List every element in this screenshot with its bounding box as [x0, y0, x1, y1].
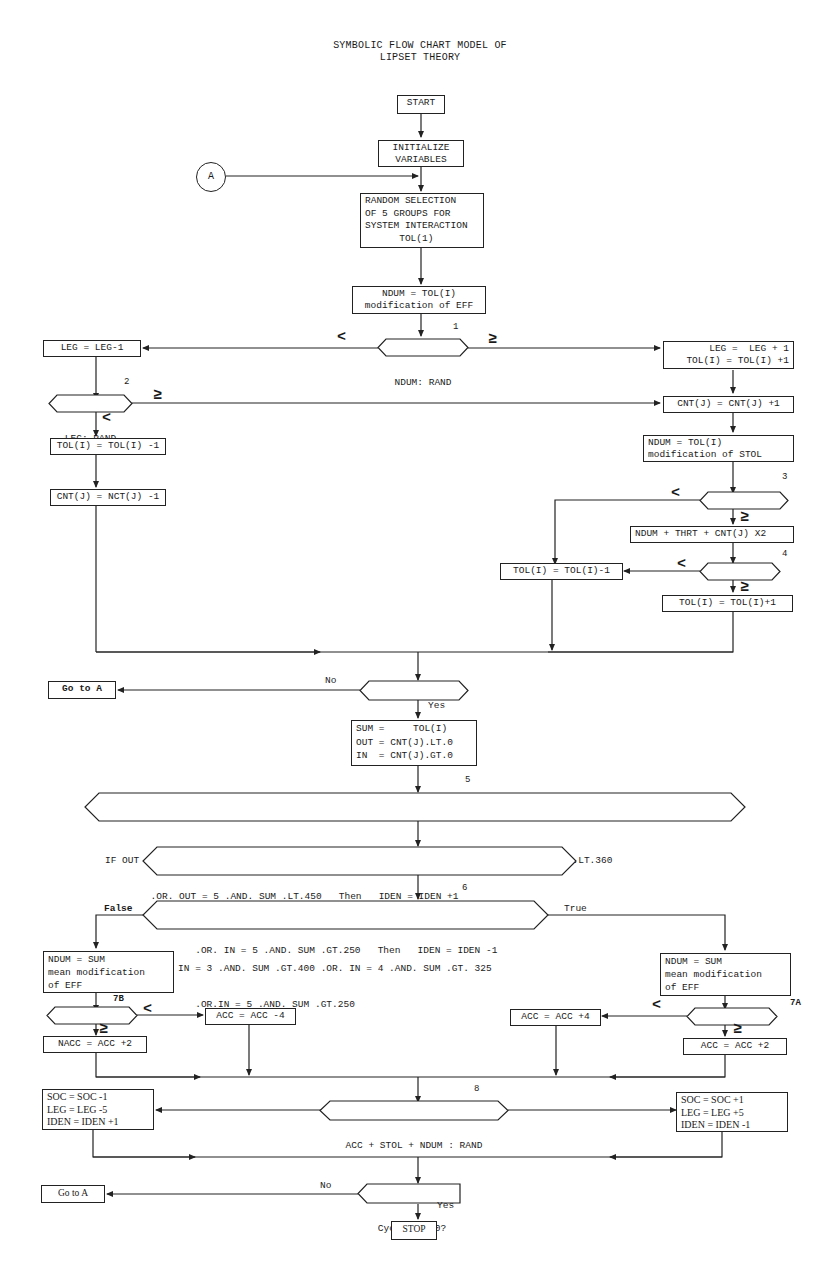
hexagon-shape — [360, 681, 468, 700]
lt-label: < — [337, 330, 346, 345]
acc-minus-4-node: ACC = ACC -4 — [205, 1008, 296, 1025]
soc-right-node: SOC = SOC +1 LEG = LEG +5 IDEN = IDEN -1 — [676, 1092, 788, 1132]
go-to-a-node-2[interactable]: Go to A — [41, 1185, 105, 1203]
acc-plus-4-node: ACC = ACC +4 — [510, 1009, 601, 1026]
lt-label: < — [671, 486, 680, 501]
ndum-thrt-node: NDUM + THRT + CNT(J) X2 — [630, 526, 794, 543]
decision-1-ndum-rand: NDUM: RAND — [378, 339, 468, 356]
hexagon-shape — [700, 492, 788, 509]
decision-7a-ndum-rand: NDUM : RAND — [687, 1008, 777, 1025]
ge-label: ≥ — [733, 1022, 742, 1037]
tol-minus-mid-node: TOL(I) = TOL(I)-1 — [500, 563, 623, 580]
step-number-4: 4 — [782, 549, 787, 559]
step-number-7a: 7A — [790, 998, 801, 1008]
decision-passes: Passes = 25? — [360, 681, 468, 700]
decision-6-in-sum: IF IN = 3 .AND. SUM .GT.400 .OR. IN = 4 … — [143, 901, 548, 929]
hexagon-shape — [320, 1101, 508, 1120]
ndum-eff-node: NDUM = TOL(I) modification of EFF — [352, 286, 486, 314]
true-label: True — [564, 903, 587, 914]
cnt-minus-node: CNT(J) = NCT(J) -1 — [50, 489, 166, 506]
lt-label: < — [102, 411, 111, 426]
step-number-5: 5 — [465, 775, 470, 785]
decision-7b-ndum-rand: NDUM : RAND — [47, 1007, 137, 1024]
no-label: No — [320, 1180, 331, 1191]
go-to-a-node-1[interactable]: Go to A — [48, 681, 116, 699]
condition-line-1: IF IN = 3 .AND. SUM .GT.400 .OR. IN = 4 … — [161, 963, 548, 975]
tol-plus-right-node: TOL(I) = TOL(I)+1 — [662, 595, 793, 612]
lt-label: < — [143, 1002, 152, 1017]
ndum-sum-left-node: NDUM = SUM mean modification of EFF — [43, 951, 174, 993]
connector-a: A — [196, 162, 226, 192]
sum-out-in-node: SUM = TOL(I) OUT = CNT(J).LT.0 IN = CNT(… — [351, 720, 477, 766]
lt-label: < — [677, 557, 686, 572]
step-number-1: 1 — [453, 322, 458, 332]
lt-label: < — [652, 998, 661, 1013]
soc-left-node: SOC = SOC -1 LEG = LEG -5 IDEN = IDEN +1 — [42, 1089, 154, 1130]
hexagon-shape — [687, 1008, 777, 1025]
ge-label: ≥ — [740, 510, 749, 525]
condition-in-iden-minus: IF IN = 3 .AND. SUM .GT.400 .OR. IN = 4 … — [143, 847, 576, 875]
decision-4-ndum-rand: NDUM: RAND — [700, 563, 780, 580]
stop-node: STOP — [391, 1221, 437, 1240]
decision-8-acc-stol-ndum-rand: ACC + STOL + NDUM : RAND — [320, 1101, 508, 1120]
hexagon-shape — [143, 847, 576, 875]
condition-out-iden-plus: IF OUT = 2 .AND. SUM .LT.180 .OR. OUT = … — [85, 793, 745, 821]
chart-title: SYMBOLIC FLOW CHART MODEL OF LIPSET THEO… — [0, 40, 840, 64]
step-number-2: 2 — [124, 377, 129, 387]
ge-label: ≥ — [488, 332, 497, 347]
tol-minus-left-node: TOL(I) = TOL(I) -1 — [50, 438, 166, 455]
hexagon-shape — [700, 563, 780, 580]
initialize-variables-node: INITIALIZE VARIABLES — [378, 140, 464, 167]
cnt-plus-node: CNT(J) = CNT(J) +1 — [663, 396, 794, 413]
step-number-7b: 7B — [113, 994, 124, 1004]
hexagon-shape — [143, 901, 548, 929]
step-number-3: 3 — [782, 472, 787, 482]
false-label: False — [104, 903, 133, 914]
hexagon-shape — [49, 395, 132, 412]
hexagon-shape — [85, 793, 745, 821]
ge-label: ≥ — [99, 1022, 108, 1037]
hexagon-shape — [47, 1007, 137, 1024]
start-node: START — [397, 95, 445, 114]
leg-minus-node: LEG = LEG-1 — [43, 340, 141, 357]
title-line-1: SYMBOLIC FLOW CHART MODEL OF — [0, 40, 840, 52]
ge-label: ≥ — [740, 580, 749, 595]
title-line-2: LIPSET THEORY — [0, 52, 840, 64]
decision-2-leg-rand: LEG: RAND — [49, 395, 132, 412]
random-selection-node: RANDOM SELECTION OF 5 GROUPS FOR SYSTEM … — [360, 193, 484, 248]
step-number-6: 6 — [462, 883, 467, 893]
acc-plus-2-node: ACC = ACC +2 — [683, 1038, 787, 1055]
ndum-stol-node: NDUM = TOL(I) modification of STOL — [643, 435, 794, 462]
step-number-8: 8 — [474, 1084, 479, 1094]
decision-3-ndum-rand: NDUM: RAND — [700, 492, 788, 509]
ge-label: ≥ — [153, 388, 162, 403]
yes-label: Yes — [428, 700, 445, 711]
no-label: No — [325, 675, 336, 686]
leg-plus-node: LEG = LEG + 1 TOL(I) = TOL(I) +1 — [663, 341, 794, 369]
ndum-sum-right-node: NDUM = SUM mean modification of EFF — [660, 953, 791, 996]
yes-label: Yes — [437, 1200, 454, 1211]
nacc-plus-2-node: NACC = ACC +2 — [43, 1036, 147, 1053]
hexagon-shape — [378, 339, 468, 356]
